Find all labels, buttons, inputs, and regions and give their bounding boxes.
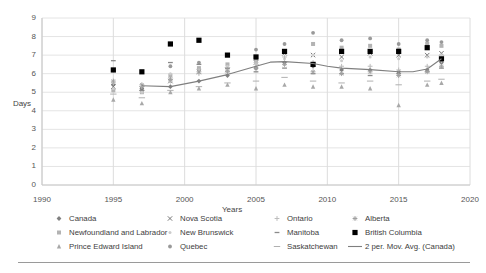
data-point bbox=[225, 69, 230, 74]
legend-label: British Columbia bbox=[365, 228, 422, 237]
legend-glyph bbox=[168, 245, 172, 249]
x-axis-label: Years bbox=[222, 206, 242, 214]
legend-glyph bbox=[168, 216, 172, 220]
data-point bbox=[340, 38, 344, 42]
data-point bbox=[112, 87, 115, 90]
data-point bbox=[425, 69, 430, 74]
legend-marker-square-filled-icon bbox=[348, 228, 362, 237]
data-point bbox=[282, 62, 287, 67]
legend-label: Saskatchewan bbox=[287, 242, 338, 251]
legend-marker-triangle-icon bbox=[52, 242, 66, 251]
data-point bbox=[168, 77, 173, 82]
data-point bbox=[226, 65, 229, 68]
bottom-divider bbox=[18, 262, 470, 263]
y-axis-tick-2: 2 bbox=[20, 144, 36, 152]
chart-canvas bbox=[0, 0, 486, 200]
data-point bbox=[253, 54, 258, 59]
data-point bbox=[339, 49, 344, 54]
data-point bbox=[311, 69, 316, 74]
data-point bbox=[396, 73, 401, 78]
y-axis-tick-1: 1 bbox=[20, 162, 36, 170]
data-point bbox=[396, 49, 401, 54]
legend-marker-diamond-icon bbox=[52, 214, 66, 223]
data-point bbox=[140, 91, 143, 94]
y-axis-tick-3: 3 bbox=[20, 125, 36, 133]
legend-glyph bbox=[352, 230, 357, 235]
data-point bbox=[369, 55, 372, 58]
data-point bbox=[168, 41, 173, 46]
legend-marker-dash-long-icon bbox=[270, 242, 284, 251]
data-point bbox=[283, 42, 287, 46]
legend-label: Newfoundland and Labrador bbox=[69, 228, 167, 237]
data-point bbox=[311, 31, 315, 35]
legend-item[interactable]: Prince Edward Island bbox=[52, 242, 143, 251]
legend-item[interactable]: Nova Scotia bbox=[163, 214, 222, 223]
legend-label: Manitoba bbox=[287, 228, 319, 237]
legend-item[interactable]: Newfoundland and Labrador bbox=[52, 228, 167, 237]
data-point bbox=[397, 42, 401, 46]
data-point bbox=[439, 44, 443, 48]
legend-item[interactable]: Saskatchewan bbox=[270, 242, 338, 251]
x-axis-tick-2020: 2020 bbox=[453, 196, 486, 204]
data-point bbox=[139, 69, 144, 74]
legend-item[interactable]: 2 per. Mov. Avg. (Canada) bbox=[348, 242, 455, 251]
legend-item[interactable]: Manitoba bbox=[270, 228, 319, 237]
legend-label: 2 per. Mov. Avg. (Canada) bbox=[365, 242, 455, 251]
y-axis-tick-4: 4 bbox=[20, 107, 36, 115]
legend-item[interactable]: Quebec bbox=[163, 242, 207, 251]
x-axis-tick-2010: 2010 bbox=[310, 196, 344, 204]
data-point bbox=[440, 40, 444, 44]
legend-label: Prince Edward Island bbox=[69, 242, 143, 251]
legend-item[interactable]: Canada bbox=[52, 214, 96, 223]
legend-marker-dot-faint-icon bbox=[163, 228, 177, 237]
data-point bbox=[339, 71, 344, 76]
data-point bbox=[340, 59, 343, 62]
data-point bbox=[368, 37, 372, 41]
legend-glyph bbox=[353, 216, 358, 221]
legend-item[interactable]: Ontario bbox=[270, 214, 313, 223]
chart-legend: CanadaNova ScotiaOntarioAlbertaNewfoundl… bbox=[0, 214, 486, 258]
legend-label: Nova Scotia bbox=[180, 214, 222, 223]
data-point bbox=[397, 57, 400, 60]
y-axis-tick-0: 0 bbox=[20, 181, 36, 189]
legend-item[interactable]: British Columbia bbox=[348, 228, 422, 237]
y-axis-tick-9: 9 bbox=[20, 14, 36, 22]
data-point bbox=[368, 49, 373, 54]
legend-label: Canada bbox=[69, 214, 96, 223]
data-point bbox=[111, 79, 116, 84]
x-axis-tick-2015: 2015 bbox=[382, 196, 416, 204]
data-point bbox=[196, 38, 201, 43]
data-point bbox=[311, 42, 315, 46]
legend-item[interactable]: New Brunswick bbox=[163, 228, 233, 237]
legend-label: New Brunswick bbox=[180, 228, 233, 237]
data-point bbox=[440, 54, 443, 57]
legend-label: Quebec bbox=[180, 242, 207, 251]
legend-label: Alberta bbox=[365, 214, 390, 223]
legend-glyph bbox=[57, 216, 62, 221]
data-point bbox=[368, 44, 372, 48]
legend-item[interactable]: Alberta bbox=[348, 214, 390, 223]
legend-marker-cross-icon bbox=[163, 214, 177, 223]
data-point bbox=[169, 72, 172, 75]
legend-glyph bbox=[275, 216, 280, 221]
data-point bbox=[282, 49, 287, 54]
figure: Days 01234567891990199520002005201020152… bbox=[0, 0, 486, 273]
data-point bbox=[169, 64, 173, 68]
chart-plot-area: Days 01234567891990199520002005201020152… bbox=[0, 0, 486, 200]
data-point bbox=[425, 45, 430, 50]
data-point bbox=[225, 53, 230, 58]
x-axis-tick-1990: 1990 bbox=[25, 196, 59, 204]
data-point bbox=[426, 55, 429, 58]
legend-label: Ontario bbox=[287, 214, 313, 223]
data-point bbox=[139, 82, 144, 87]
y-axis-tick-5: 5 bbox=[20, 88, 36, 96]
legend-marker-line-icon bbox=[348, 242, 362, 251]
legend-marker-square-light-icon bbox=[52, 228, 66, 237]
data-point bbox=[254, 48, 258, 52]
legend-glyph bbox=[169, 231, 172, 234]
y-axis-tick-8: 8 bbox=[20, 33, 36, 41]
x-axis-tick-2000: 2000 bbox=[168, 196, 202, 204]
y-axis-tick-7: 7 bbox=[20, 51, 36, 59]
data-point bbox=[111, 67, 116, 72]
x-axis-tick-1995: 1995 bbox=[96, 196, 130, 204]
